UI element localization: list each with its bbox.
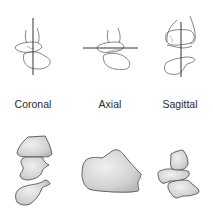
axial-outline-drawing <box>97 28 130 70</box>
coronal-tibia-section <box>17 136 52 157</box>
axial-talus-section <box>82 150 141 193</box>
coronal-talus-section <box>20 157 49 180</box>
coronal-label: Coronal <box>8 98 58 110</box>
axial-label: Axial <box>85 98 135 110</box>
sagittal-tibia-section <box>171 150 188 170</box>
sagittal-section <box>158 150 199 198</box>
ankle-imaging-planes-diagram: Coronal Axial Sagittal <box>0 0 213 208</box>
sagittal-label: Sagittal <box>155 98 205 110</box>
coronal-calcaneus-section <box>16 180 50 205</box>
sagittal-outline-drawing <box>165 16 196 74</box>
coronal-section <box>16 136 52 205</box>
sagittal-calcaneus-section <box>168 180 199 198</box>
axial-section <box>82 150 141 193</box>
